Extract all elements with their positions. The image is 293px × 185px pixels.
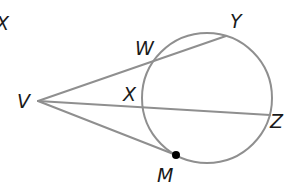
label-z: Z xyxy=(269,110,284,132)
label-y: Y xyxy=(230,10,243,32)
label-v: V xyxy=(17,90,32,112)
label-corner-x: X xyxy=(0,12,10,34)
label-m: M xyxy=(157,164,173,185)
circle xyxy=(142,33,272,163)
tangent-vm xyxy=(38,101,176,155)
geometry-diagram: X V W Y X Z M xyxy=(0,0,293,185)
label-x: X xyxy=(122,83,137,105)
label-w: W xyxy=(135,37,155,59)
point-m-dot xyxy=(172,151,180,159)
secant-vz xyxy=(38,101,270,115)
